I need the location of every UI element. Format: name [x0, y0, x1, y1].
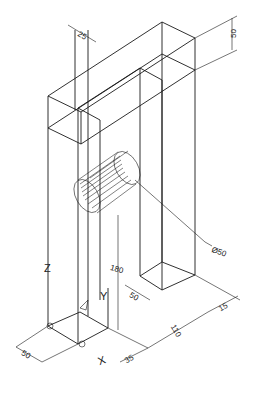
- left-pillar: [48, 30, 108, 344]
- axes: Z Y X: [44, 262, 108, 367]
- dim-35: 35: [123, 353, 136, 366]
- dim-50-pillar: 50: [128, 290, 141, 303]
- cylinder-hole: [68, 147, 145, 217]
- top-bar: [48, 22, 195, 144]
- dim-25: 25: [76, 30, 89, 43]
- isometric-drawing: 25 50 Ø50 180 50 50 110 15 35 Z Y X: [0, 0, 254, 394]
- dim-diameter: Ø50: [210, 245, 228, 259]
- right-pillar: [140, 54, 195, 290]
- dim-50-top: 50: [229, 29, 238, 38]
- dim-180: 180: [109, 263, 125, 275]
- axis-x-label: X: [96, 353, 108, 367]
- axis-y-label: Y: [100, 290, 108, 302]
- dim-15: 15: [217, 301, 230, 314]
- axis-z-label: Z: [44, 262, 51, 274]
- dim-110: 110: [169, 323, 183, 339]
- dimensions: 25 50 Ø50 180 50 50 110 15 35: [16, 16, 240, 365]
